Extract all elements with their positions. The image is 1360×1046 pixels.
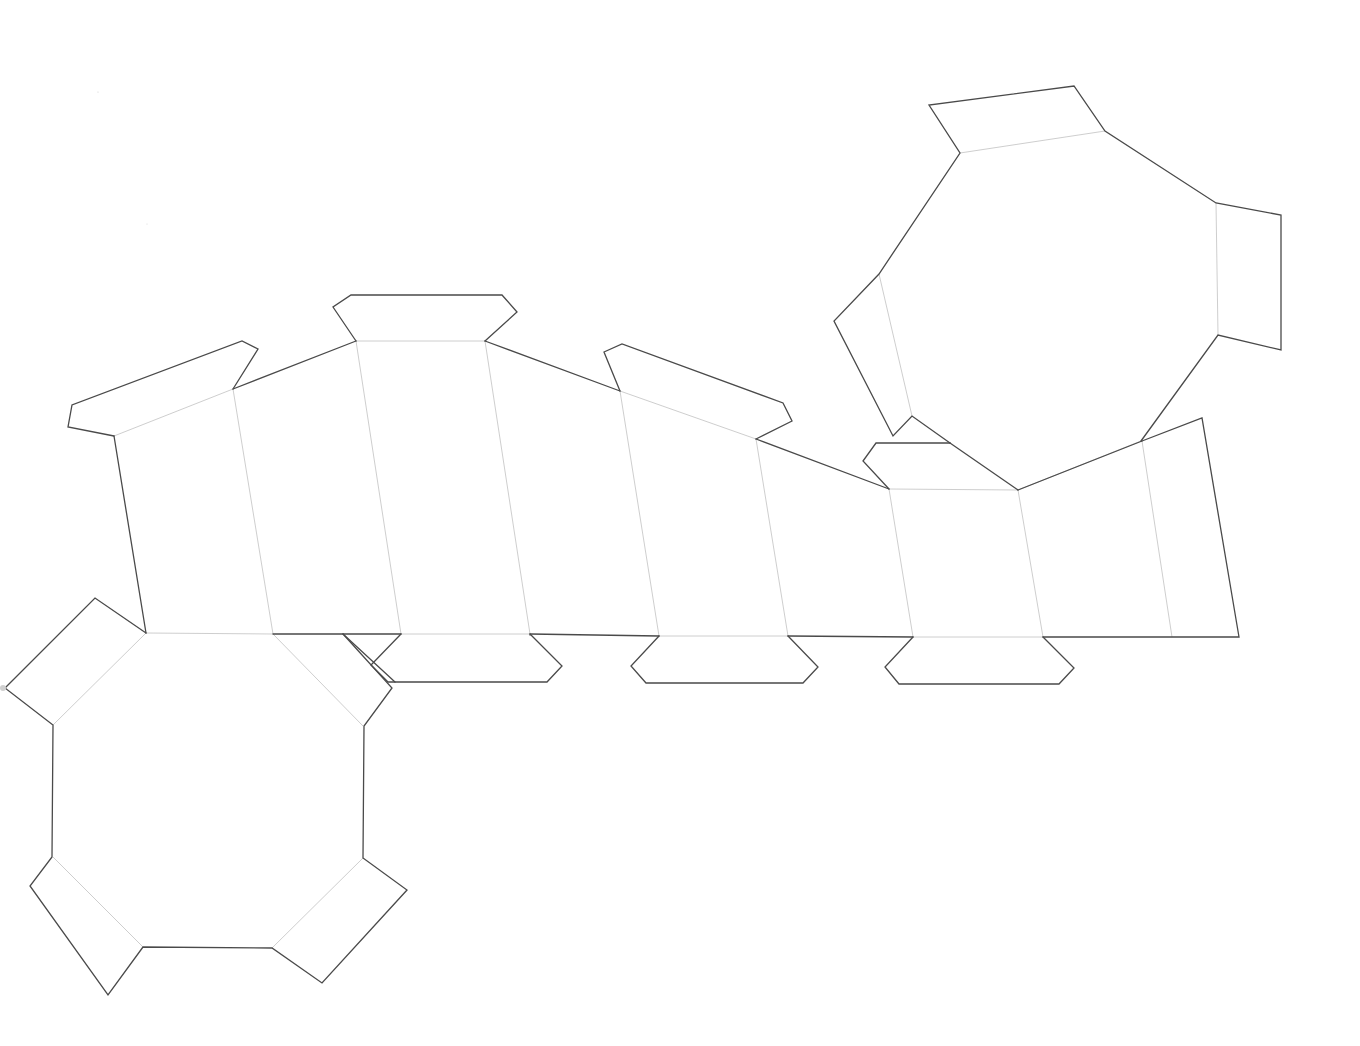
papercraft-net-canvas xyxy=(0,0,1360,1046)
scan-speck xyxy=(97,91,98,92)
paper-background xyxy=(0,0,1360,1046)
scan-speck xyxy=(147,224,148,225)
scan-speck xyxy=(0,685,6,691)
scan-speck xyxy=(1012,92,1013,93)
